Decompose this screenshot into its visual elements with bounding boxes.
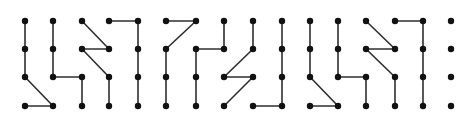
grid-dot — [193, 46, 199, 52]
grid-dot — [279, 18, 285, 24]
diagram-svg — [0, 0, 474, 120]
grid-dot — [221, 18, 227, 24]
grid-dot — [392, 18, 398, 24]
grid-dot — [193, 18, 199, 24]
grid-dot — [363, 74, 369, 80]
grid-dot — [448, 103, 454, 109]
grid-dot — [250, 46, 256, 52]
grid-dot — [193, 74, 199, 80]
grid-dot — [363, 103, 369, 109]
grid-dot — [392, 74, 398, 80]
edge-line — [224, 49, 253, 77]
grid-dot — [163, 103, 169, 109]
grid-dot — [448, 46, 454, 52]
grid-dot — [392, 46, 398, 52]
grid-dot — [163, 74, 169, 80]
grid-dot — [448, 18, 454, 24]
edge-line — [366, 49, 395, 77]
grid-dot — [363, 18, 369, 24]
grid-dot — [193, 103, 199, 109]
grid-dot — [221, 46, 227, 52]
grid-dot — [221, 103, 227, 109]
grid-dot — [420, 46, 426, 52]
grid-dot — [420, 103, 426, 109]
grid-dot — [163, 46, 169, 52]
edge-line — [25, 77, 53, 106]
grid-dot — [79, 103, 85, 109]
grid-dot — [307, 74, 313, 80]
grid-dot — [135, 18, 141, 24]
grid-dot — [279, 46, 285, 52]
grid-dot — [250, 18, 256, 24]
grid-dot — [448, 74, 454, 80]
grid-dot — [392, 103, 398, 109]
grid-dot — [335, 46, 341, 52]
grid-dot — [335, 18, 341, 24]
grid-dot — [79, 18, 85, 24]
grid-dot — [335, 74, 341, 80]
grid-dot — [221, 74, 227, 80]
grid-dot — [363, 46, 369, 52]
grid-dot — [106, 103, 112, 109]
grid-dot — [50, 103, 56, 109]
grid-dot — [135, 46, 141, 52]
grid-dot — [135, 74, 141, 80]
grid-dot — [50, 46, 56, 52]
edge-line — [82, 21, 109, 49]
grid-dot — [250, 103, 256, 109]
dot-grid-diagram — [0, 0, 474, 120]
grid-dot — [420, 18, 426, 24]
grid-dot — [106, 46, 112, 52]
edge-line — [366, 21, 395, 49]
edge-line — [310, 77, 338, 106]
edge-line — [82, 49, 109, 77]
grid-dot — [22, 18, 28, 24]
edge-line — [224, 77, 253, 106]
grid-dot — [279, 103, 285, 109]
grid-dot — [106, 18, 112, 24]
grid-dot — [135, 103, 141, 109]
grid-dot — [106, 74, 112, 80]
grid-dot — [50, 74, 56, 80]
grid-dot — [79, 74, 85, 80]
grid-dot — [307, 103, 313, 109]
grid-dot — [335, 103, 341, 109]
grid-dot — [22, 46, 28, 52]
grid-dot — [163, 18, 169, 24]
edges-layer — [25, 21, 423, 106]
grid-dot — [79, 46, 85, 52]
grid-dot — [22, 74, 28, 80]
grid-dot — [307, 46, 313, 52]
grid-dot — [279, 74, 285, 80]
grid-dot — [307, 18, 313, 24]
grid-dot — [50, 18, 56, 24]
edge-line — [166, 21, 196, 49]
grid-dot — [22, 103, 28, 109]
grid-dot — [420, 74, 426, 80]
grid-dot — [250, 74, 256, 80]
